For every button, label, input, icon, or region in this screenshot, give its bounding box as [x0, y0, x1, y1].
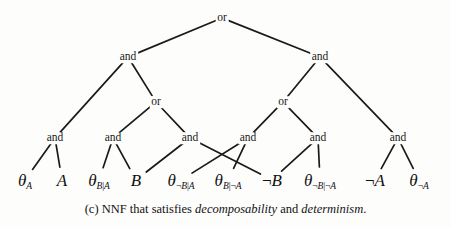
tree-edge — [135, 20, 216, 54]
caption-prefix: (c) NNF that satisfies — [85, 202, 195, 216]
tree-leaf: θ¬A — [409, 172, 428, 189]
tree-node-and: and — [238, 132, 258, 144]
tree-edge — [192, 141, 242, 173]
tree-edge — [253, 107, 278, 133]
tree-leaf: B — [131, 172, 141, 189]
tree-node-and: and — [310, 51, 330, 63]
tree-edge — [160, 107, 184, 133]
tree-leaf: θ¬B|¬A — [304, 172, 336, 189]
tree-leaf: θB|A — [88, 172, 110, 189]
tree-node-and: and — [180, 132, 200, 144]
tree-edge — [325, 62, 393, 133]
tree-leaf: A — [57, 172, 67, 189]
tree-edge — [288, 62, 316, 96]
tree-edge — [288, 107, 313, 133]
tree-edge — [401, 144, 413, 169]
tree-node-and: and — [45, 132, 65, 144]
tree-node-and: and — [388, 132, 408, 144]
tree-node-and: and — [103, 132, 123, 144]
caption-suffix: . — [363, 202, 366, 216]
tree-node-or: or — [277, 96, 290, 108]
caption-term-decomposability: decomposability — [195, 202, 277, 216]
tree-edge — [103, 144, 111, 168]
tree-node-and: and — [308, 132, 328, 144]
tree-node-and: and — [118, 51, 138, 63]
tree-edge — [116, 144, 130, 169]
tree-node-or: or — [150, 96, 163, 108]
tree-leaf: θ¬B|A — [168, 172, 195, 189]
tree-leaf: θB|¬A — [215, 172, 242, 189]
tree-node-or: or — [216, 12, 229, 24]
tree-edge — [119, 106, 151, 133]
tree-edge — [131, 63, 152, 96]
tree-edge — [196, 141, 261, 174]
tree-edges — [0, 0, 451, 227]
tree-edge — [60, 62, 124, 133]
nnf-figure: orandandororandandandandandand θAAθB|ABθ… — [0, 0, 451, 227]
tree-edge — [146, 142, 185, 172]
tree-edge — [282, 142, 314, 171]
caption-term-determinism: determinism — [301, 202, 363, 216]
tree-edge — [33, 143, 52, 169]
tree-edge — [381, 144, 395, 169]
caption-mid: and — [277, 202, 301, 216]
tree-leaf: ¬B — [262, 172, 282, 189]
tree-leaf: ¬A — [365, 172, 385, 189]
figure-caption: (c) NNF that satisfies decomposability a… — [0, 203, 451, 217]
tree-edge — [318, 144, 319, 167]
tree-edge — [56, 144, 60, 167]
tree-leaf: θA — [18, 172, 32, 189]
tree-edge — [228, 20, 313, 54]
